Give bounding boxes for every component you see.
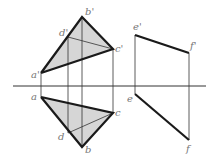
label-d-prime: d' <box>59 27 68 38</box>
label-e: e <box>127 93 133 104</box>
label-f-prime: f' <box>189 40 196 51</box>
label-c-prime: c' <box>115 43 123 54</box>
line-e-prime-f-prime <box>135 35 189 53</box>
label-a: a <box>31 91 37 102</box>
label-c: c <box>115 107 121 118</box>
label-f: f <box>185 143 192 154</box>
line-e-f <box>135 94 189 140</box>
label-b-prime: b' <box>85 6 94 17</box>
projection-diagram: b' d' c' a' a c d b e' f' e f <box>0 0 212 164</box>
label-b: b <box>85 144 91 155</box>
label-d: d <box>58 131 64 142</box>
label-a-prime: a' <box>31 69 40 80</box>
label-e-prime: e' <box>133 21 142 32</box>
